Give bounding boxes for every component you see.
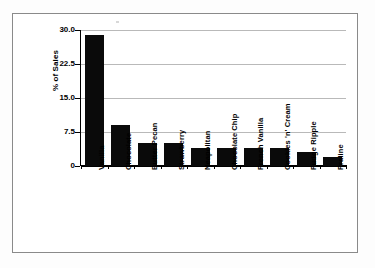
x-tick-mark-1 [108, 166, 109, 169]
category-label-8: Fudge Ripple [309, 121, 318, 170]
x-tick-mark-9 [320, 166, 321, 169]
y-axis-tick-labels: 07.515.022.530.0 [23, 14, 75, 254]
screenshot-canvas: % of Sales 07.515.022.530.0 VanillaChoco… [0, 0, 375, 268]
y-tick-mark-7.5 [75, 132, 80, 133]
y-tick-label-15.0: 15.0 [29, 94, 75, 102]
category-label-7: Cookies 'n' Cream [283, 103, 292, 170]
y-tick-label-0: 0 [29, 162, 75, 170]
x-tick-mark-2 [134, 166, 135, 169]
y-tick-mark-0 [75, 166, 80, 167]
y-tick-label-7.5: 7.5 [29, 128, 75, 136]
x-tick-mark-4 [187, 166, 188, 169]
x-tick-mark-3 [161, 166, 162, 169]
category-label-0: Vanilla [97, 146, 106, 170]
category-label-2: Butter Pecan [150, 123, 159, 170]
y-tick-mark-15.0 [75, 98, 80, 99]
y-tick-mark-22.5 [75, 64, 80, 65]
category-label-3: Strawberry [177, 130, 186, 170]
category-label-6: French Vanilla [256, 118, 265, 170]
y-tick-mark-30.0 [75, 30, 80, 31]
category-label-1: Chocolate [124, 133, 133, 170]
x-tick-mark-8 [293, 166, 294, 169]
x-tick-mark-0 [81, 166, 82, 169]
y-tick-label-30.0: 30.0 [29, 26, 75, 34]
x-tick-mark-5 [214, 166, 215, 169]
x-axis-category-labels: VanillaChocolateButter PecanStrawberryNe… [81, 14, 351, 254]
category-label-4: Neapolitan [203, 131, 212, 170]
y-tick-label-22.5: 22.5 [29, 60, 75, 68]
category-label-9: Praline [336, 144, 345, 170]
category-label-5: Chocolate Chip [230, 114, 239, 170]
x-tick-mark-7 [267, 166, 268, 169]
chart-figure-frame: % of Sales 07.515.022.530.0 VanillaChoco… [12, 13, 358, 253]
x-tick-mark-6 [240, 166, 241, 169]
x-tick-mark-end [346, 166, 347, 169]
